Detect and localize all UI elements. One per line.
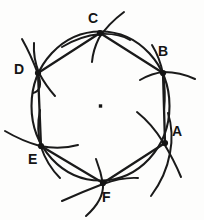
- vertex-dot-c: [97, 30, 103, 36]
- arc-at-b: [140, 72, 195, 80]
- vertex-label-c: C: [88, 11, 98, 25]
- vertex-label-d: D: [14, 62, 24, 76]
- geometry-figure: A B C D E F: [0, 0, 204, 220]
- center-point-dot: [99, 104, 102, 107]
- vertex-dot-b: [160, 70, 166, 76]
- vertex-dot-a: [162, 140, 168, 146]
- vertex-label-a: A: [172, 124, 182, 138]
- vertex-label-f: F: [102, 190, 111, 204]
- vertex-label-e: E: [28, 152, 37, 166]
- hexagon-group: [38, 33, 165, 183]
- vertex-dot-e: [38, 143, 44, 149]
- vertex-dot-d: [35, 70, 41, 76]
- figure-canvas: [0, 0, 204, 220]
- vertex-dot-f: [100, 180, 106, 186]
- vertex-label-b: B: [158, 44, 168, 58]
